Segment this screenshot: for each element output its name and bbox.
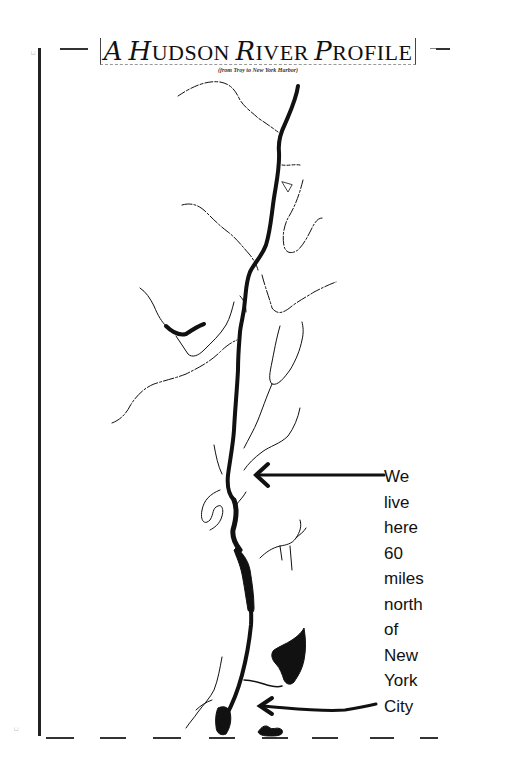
tributary-east-lower xyxy=(244,408,300,470)
annotation-line: York xyxy=(384,668,424,694)
tributary-east-small-1 xyxy=(282,165,300,166)
tributary-east-parallel-2 xyxy=(244,384,272,448)
long-island-sound-inlet xyxy=(272,628,306,684)
tributary-west-lake-outflow xyxy=(176,302,234,356)
annotation-line: 60 xyxy=(384,541,424,567)
haverstraw-bay-widening xyxy=(234,548,254,613)
reservoir-lake xyxy=(166,324,204,335)
tributary-east-mid xyxy=(262,275,336,312)
hudson-river-main-channel xyxy=(228,86,298,500)
tributary-west-short xyxy=(214,445,222,474)
tributary-lower-east xyxy=(244,680,282,687)
tributary-east-parallel-1 xyxy=(270,322,303,384)
harbor-islands xyxy=(258,726,283,736)
annotation-line: New xyxy=(384,643,424,669)
annotation-line: live xyxy=(384,490,424,516)
tributary-near-bend xyxy=(236,492,246,505)
annotation-line: here xyxy=(384,515,424,541)
tributary-east-small-triangle xyxy=(282,182,292,192)
hudson-river-map xyxy=(0,0,520,774)
tributary-west-lake-inflow xyxy=(140,288,166,326)
tributary-west-loops xyxy=(201,490,222,530)
annotation-line: We xyxy=(384,464,424,490)
upper-harbor xyxy=(216,707,231,735)
tributary-west-long xyxy=(112,340,237,423)
tributary-west-upper xyxy=(182,204,258,270)
annotation-line: City xyxy=(384,694,424,720)
river-bend-segment xyxy=(233,500,240,550)
annotation-line: of xyxy=(384,617,424,643)
location-annotation: We live here 60 miles north of New York … xyxy=(384,464,424,719)
annotation-line: north xyxy=(384,592,424,618)
annotation-line: miles xyxy=(384,566,424,592)
new-york-city-arrow xyxy=(262,704,376,711)
tributary-east-branching xyxy=(260,520,306,570)
tributary-northwest-upper xyxy=(178,82,278,132)
